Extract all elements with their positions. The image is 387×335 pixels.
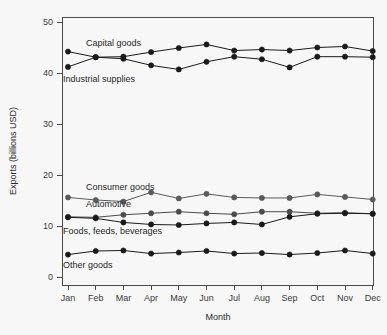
chart-screenshot: 01020304050 JanFebMarAprMayJunJulAugSepO… [0,0,387,335]
data-point [342,44,347,49]
data-point [176,250,181,255]
data-point [315,45,320,50]
x-tick-label: Jun [199,293,214,303]
y-tick-label: 30 [43,119,53,129]
y-tick-label: 40 [43,68,53,78]
data-point [315,192,320,197]
y-tick-label: 50 [43,17,53,27]
x-tick-label: Nov [337,293,354,303]
x-tick-label: Jul [228,293,240,303]
data-point [65,215,70,220]
x-axis-title: Month [205,312,230,322]
data-point [232,48,237,53]
data-point [315,250,320,255]
data-point [370,251,375,256]
data-point [232,251,237,256]
data-point [232,54,237,59]
data-point [204,211,209,216]
y-axis-title: Exports (billions USD) [8,107,18,195]
data-point [149,211,154,216]
data-point [176,45,181,50]
data-point [370,48,375,53]
x-tick-label: Sep [282,293,298,303]
data-point [259,222,264,227]
data-point [204,191,209,196]
y-tick-label: 20 [43,170,53,180]
data-point [204,221,209,226]
series-inline-label: Foods, feeds, beverages [63,226,163,236]
data-point [342,248,347,253]
data-point [315,54,320,59]
data-point [121,56,126,61]
data-point [149,49,154,54]
data-point [176,196,181,201]
x-tick-label: Jan [61,293,76,303]
series-inline-label: Automotive [86,199,131,209]
x-tick-label: Apr [144,293,158,303]
data-point [121,212,126,217]
y-tick-label: 0 [48,272,53,282]
data-point [93,248,98,253]
data-point [287,214,292,219]
x-tick-label: Oct [310,293,325,303]
data-point [259,209,264,214]
x-tick-label: Dec [365,293,382,303]
data-point [93,216,98,221]
data-point [149,251,154,256]
data-point [370,55,375,60]
data-point [149,63,154,68]
data-point [287,48,292,53]
data-point [65,195,70,200]
data-point [370,197,375,202]
data-point [370,211,375,216]
data-point [65,64,70,69]
exports-by-category-line-chart: 01020304050 JanFebMarAprMayJunJulAugSepO… [0,0,387,335]
data-point [287,195,292,200]
data-point [259,250,264,255]
series-inline-label: Consumer goods [86,182,155,192]
data-point [259,57,264,62]
data-point [287,252,292,257]
data-point [65,252,70,257]
data-point [93,55,98,60]
data-point [121,220,126,225]
data-point [121,248,126,253]
data-point [287,65,292,70]
data-point [342,54,347,59]
x-tick-label: Aug [254,293,270,303]
data-point [232,220,237,225]
data-point [342,211,347,216]
data-point [176,222,181,227]
data-point [315,211,320,216]
series-inline-label: Industrial supplies [63,74,136,84]
x-tick-label: Mar [116,293,132,303]
data-point [204,248,209,253]
x-tick-label: Feb [88,293,104,303]
data-point [204,59,209,64]
series-inline-label: Other goods [63,260,113,270]
data-point [176,67,181,72]
data-point [287,209,292,214]
data-point [232,195,237,200]
data-point [204,42,209,47]
data-point [259,47,264,52]
data-point [176,209,181,214]
data-point [65,49,70,54]
y-tick-label: 10 [43,221,53,231]
data-point [232,212,237,217]
data-point [342,194,347,199]
x-tick-label: May [170,293,188,303]
series-inline-label: Capital goods [86,38,142,48]
data-point [259,195,264,200]
